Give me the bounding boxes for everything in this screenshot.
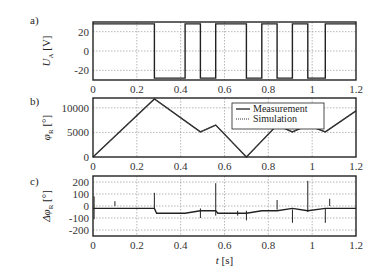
x-tick-label: 0.2 (130, 239, 144, 251)
y-tick-label: 0 (84, 45, 90, 57)
y-axis-label: φR [°] (40, 115, 55, 140)
x-tick-label: 0.6 (218, 83, 232, 95)
y-tick-label: 0 (84, 200, 90, 212)
y-tick-label: -200 (69, 224, 90, 236)
x-tick-label: 1 (309, 160, 315, 172)
x-tick-label: 0 (90, 160, 96, 172)
x-tick-label: 0.8 (261, 83, 275, 95)
x-tick-label: 0 (90, 239, 96, 251)
x-tick-label: 0.4 (174, 239, 188, 251)
y-tick-label: 100 (73, 188, 90, 200)
x-tick-label: 1 (309, 83, 315, 95)
panel-label: c) (30, 175, 39, 188)
x-tick-label: 0.8 (261, 239, 275, 251)
x-tick-label: 1 (309, 239, 315, 251)
y-axis-label: ΔφR [°] (40, 190, 55, 223)
panel-a: a)00.20.40.60.811.2200-20UA [V] (30, 14, 363, 95)
legend: MeasurementSimulation (232, 103, 324, 129)
y-tick-label: 20 (78, 26, 90, 38)
y-tick-label: 0 (84, 151, 90, 163)
x-tick-label: 1.2 (349, 239, 363, 251)
x-tick-label: 0.8 (261, 160, 275, 172)
x-tick-label: 0.6 (218, 160, 232, 172)
y-axis-label: UA [V] (40, 35, 55, 66)
y-tick-label: 10000 (62, 102, 90, 114)
x-tick-label: 0.4 (174, 83, 188, 95)
x-tick-label: 1.2 (349, 160, 363, 172)
x-tick-label: 0.4 (174, 160, 188, 172)
chart-figure: a)00.20.40.60.811.2200-20UA [V]b)00.20.4… (0, 0, 378, 276)
panel-label: b) (30, 95, 40, 108)
panel-b: b)00.20.40.60.811.21000050000φR [°]Measu… (30, 95, 363, 172)
x-tick-label: 0.2 (130, 83, 144, 95)
x-tick-label: 1.2 (349, 83, 363, 95)
y-tick-label: -100 (69, 212, 90, 224)
y-tick-label: 200 (73, 176, 90, 188)
legend-label-simulation: Simulation (253, 113, 297, 124)
x-tick-label: 0 (90, 83, 96, 95)
x-tick-label: 0.6 (218, 239, 232, 251)
x-axis-label: t [s] (216, 254, 233, 266)
y-tick-label: -20 (74, 64, 89, 76)
y-tick-label: 5000 (67, 126, 90, 138)
panel-c: c)00.20.40.60.811.22001000-100-200ΔφR [°… (30, 175, 363, 266)
x-tick-label: 0.2 (130, 160, 144, 172)
panel-label: a) (30, 14, 39, 27)
